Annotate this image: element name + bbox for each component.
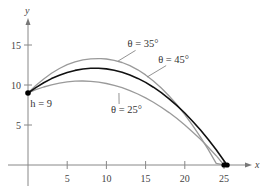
y-tick-label: 5 [16, 120, 21, 131]
y-axis-label: y [24, 5, 30, 16]
x-axis-label: x [254, 159, 260, 170]
y-axis-arrow-icon [26, 18, 31, 25]
launch-point [25, 90, 31, 96]
annotation-leader [118, 50, 135, 61]
x-tick-label: 5 [65, 173, 70, 184]
trajectory-45deg [28, 68, 227, 165]
x-tick-label: 25 [219, 173, 229, 184]
y-tick-label: 10 [11, 80, 21, 91]
annotation-label: θ = 45° [158, 54, 189, 65]
projectile-trajectory-chart: x y 51015202551015 θ = 35°θ = 45°θ = 25°… [0, 0, 266, 193]
annotation-leader [147, 66, 166, 77]
landing-point [225, 162, 230, 167]
y-tick-label: 15 [11, 40, 21, 51]
annotation-label: h = 9 [30, 98, 52, 109]
annotation-label: θ = 35° [128, 38, 159, 49]
annotation-label: θ = 25° [111, 104, 142, 115]
x-tick-label: 15 [141, 173, 151, 184]
x-tick-label: 20 [180, 173, 190, 184]
x-tick-label: 10 [101, 173, 111, 184]
x-axis-arrow-icon [245, 163, 252, 168]
